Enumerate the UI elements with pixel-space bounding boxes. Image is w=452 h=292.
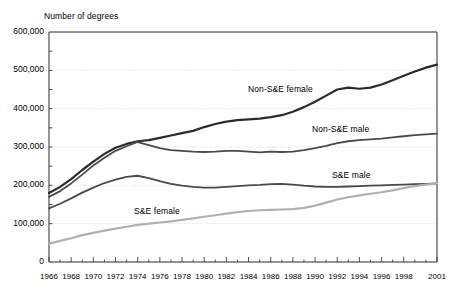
y-axis-tick-label: 300,000 — [0, 141, 50, 151]
y-axis-tick-label: 500,000 — [0, 64, 50, 74]
series-label-s-e-male: S&E male — [332, 170, 371, 180]
degrees-by-field-and-sex-line-chart: Number of degrees 600,000500,000400,0003… — [0, 0, 452, 292]
x-axis-tick-label: 1998 — [388, 272, 420, 281]
series-label-non-s-e-female: Non-S&E female — [248, 84, 313, 94]
y-axis-tick-label: 600,000 — [0, 26, 50, 36]
series-line-non-s-e-female — [49, 65, 437, 193]
y-axis-tick-label: 0 — [0, 256, 50, 266]
series-label-s-e-female: S&E female — [134, 206, 180, 216]
series-label-non-s-e-male: Non-S&E male — [312, 124, 369, 134]
series-line-non-s-e-male — [49, 134, 437, 197]
y-axis-tick-label: 100,000 — [0, 218, 50, 228]
x-axis-tick-label: 2001 — [421, 272, 452, 281]
plot-canvas — [0, 0, 452, 292]
y-axis-tick-label: 200,000 — [0, 179, 50, 189]
series-line-s-e-female — [49, 183, 437, 243]
y-axis-tick-label: 400,000 — [0, 103, 50, 113]
